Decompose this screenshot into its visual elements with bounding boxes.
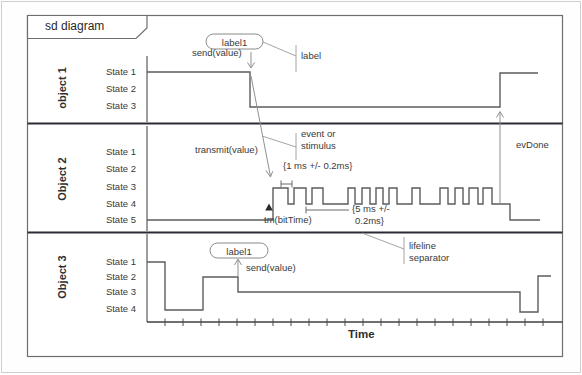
state-label: State 2 xyxy=(60,271,136,282)
stimulus-text: stimulus xyxy=(301,140,336,151)
state-label: State 3 xyxy=(60,286,136,297)
state-label: State 1 xyxy=(60,256,136,267)
state-label: State 1 xyxy=(60,66,136,77)
state-label: State 4 xyxy=(60,198,136,209)
state-label: State 3 xyxy=(60,100,136,111)
state-label: State 3 xyxy=(60,181,136,192)
event-or-text: event or xyxy=(301,128,335,139)
evdone-text: evDone xyxy=(516,139,549,150)
duration-1ms-text: {1 ms +/- 0.2ms} xyxy=(283,160,352,171)
label-text: label xyxy=(301,50,321,61)
duration-5ms-text-line1: {5 ms +/- xyxy=(352,203,390,214)
state-label: State 5 xyxy=(60,214,136,225)
lifeline-separator-text-line2: separator xyxy=(409,252,449,263)
state-label: State 2 xyxy=(60,83,136,94)
frame-title: sd diagram xyxy=(45,19,104,33)
send-value-text-object1: send(value) xyxy=(192,47,242,58)
state-label: State 2 xyxy=(60,163,136,174)
time-axis-label: Time xyxy=(348,328,392,340)
state-label: State 1 xyxy=(60,146,136,157)
timing-diagram-figure: sd diagram object 1State 1State 2State 3… xyxy=(0,0,582,375)
state-label: State 4 xyxy=(60,303,136,314)
label1-text-object3: label1 xyxy=(210,246,268,257)
transmit-value-text: transmit(value) xyxy=(195,144,258,155)
lifeline-separator-text-line1: lifeline xyxy=(409,240,436,251)
tm-bittime-text: tm(bitTime) xyxy=(264,214,312,225)
duration-5ms-text-line2: 0.2ms} xyxy=(355,215,384,226)
send-value-text-object3: send(value) xyxy=(246,262,296,273)
